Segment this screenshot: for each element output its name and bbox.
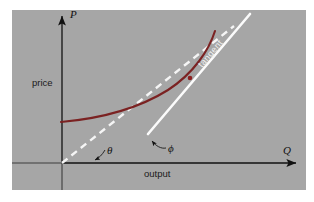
vertical-axis-label: P xyxy=(69,8,77,20)
tangent-line xyxy=(148,14,250,134)
angle-phi-arc xyxy=(152,141,166,148)
economics-diagram: P Q price output θ ϕ tangent xyxy=(0,0,314,202)
horizontal-axis-label: Q xyxy=(283,144,291,156)
price-caption: price xyxy=(32,77,53,88)
output-caption: output xyxy=(144,168,171,179)
cost-curve xyxy=(61,31,215,122)
tangency-point xyxy=(188,76,193,81)
angle-theta-arc xyxy=(95,150,105,160)
figure-root: P Q price output θ ϕ tangent xyxy=(0,0,314,202)
angle-phi-label: ϕ xyxy=(168,142,174,154)
angle-theta-label: θ xyxy=(107,144,113,156)
